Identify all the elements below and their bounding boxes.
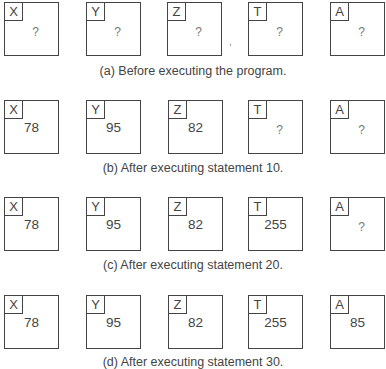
state-row-b: X 78 Y 95 Z 82 T ? A ?: [0, 100, 386, 156]
variable-label: Y: [86, 2, 105, 21]
variable-value: 82: [169, 120, 222, 136]
variable-value: 82: [169, 315, 222, 331]
variable-label: X: [4, 2, 23, 21]
caption-c: (c) After executing statement 20.: [0, 258, 386, 272]
memory-cell-x: X 78: [4, 197, 59, 251]
state-row-d: X 78 Y 95 Z 82 T 255 A 85: [0, 295, 386, 351]
memory-cell-z: Z 82: [168, 295, 223, 349]
variable-value: 95: [87, 217, 140, 233]
caption-a: (a) Before executing the program.: [0, 64, 386, 78]
variable-label: T: [248, 2, 267, 21]
variable-label: T: [248, 197, 267, 216]
variable-label: Z: [168, 197, 187, 216]
stray-mark: ,: [229, 36, 232, 47]
memory-cell-t: T ?: [248, 2, 303, 56]
variable-value: ?: [168, 24, 221, 40]
variable-value: 82: [169, 217, 222, 233]
state-row-a: X ? Y ? Z ? , T ? A ?: [0, 2, 386, 58]
variable-label: A: [330, 295, 349, 314]
memory-cell-x: X 78: [4, 100, 59, 154]
variable-value: 78: [5, 120, 58, 136]
variable-value: 78: [5, 315, 58, 331]
variable-value: ?: [249, 122, 302, 138]
memory-cell-t: T 255: [248, 197, 303, 251]
memory-cell-a: A ?: [330, 100, 385, 154]
memory-cell-a: A 85: [330, 295, 385, 349]
variable-label: Y: [86, 100, 105, 119]
state-row-c: X 78 Y 95 Z 82 T 255 A ?: [0, 197, 386, 253]
memory-cell-a: A ?: [330, 197, 385, 251]
variable-label: A: [330, 2, 349, 21]
memory-cell-z: Z 82: [168, 100, 223, 154]
variable-value: 78: [5, 217, 58, 233]
memory-cell-a: A ?: [330, 2, 385, 56]
variable-label: A: [330, 197, 349, 216]
variable-label: T: [248, 100, 267, 119]
caption-d: (d) After executing statement 30.: [0, 355, 386, 369]
memory-cell-y: Y ?: [86, 2, 141, 56]
variable-value: ?: [331, 219, 384, 235]
memory-cell-t: T ?: [248, 100, 303, 154]
memory-cell-y: Y 95: [86, 197, 141, 251]
variable-label: X: [4, 295, 23, 314]
variable-label: A: [330, 100, 349, 119]
variable-value: 255: [249, 315, 302, 331]
memory-cell-x: X ?: [4, 2, 59, 56]
variable-label: Z: [168, 100, 187, 119]
memory-cell-t: T 255: [248, 295, 303, 349]
variable-label: Y: [86, 295, 105, 314]
memory-cell-z: Z ?: [167, 2, 222, 56]
variable-label: Y: [86, 197, 105, 216]
memory-cell-z: Z 82: [168, 197, 223, 251]
variable-value: ?: [331, 122, 384, 138]
variable-value: 95: [87, 120, 140, 136]
variable-label: T: [248, 295, 267, 314]
memory-cell-y: Y 95: [86, 295, 141, 349]
variable-value: 95: [87, 315, 140, 331]
variable-value: ?: [249, 24, 302, 40]
variable-label: X: [4, 100, 23, 119]
memory-cell-x: X 78: [4, 295, 59, 349]
variable-label: Z: [167, 2, 186, 21]
caption-b: (b) After executing statement 10.: [0, 161, 386, 175]
variable-value: ?: [87, 24, 140, 40]
variable-value: 255: [249, 217, 302, 233]
variable-value: ?: [5, 24, 58, 40]
variable-value: ?: [331, 24, 384, 40]
variable-label: Z: [168, 295, 187, 314]
variable-value: 85: [331, 315, 384, 331]
memory-cell-y: Y 95: [86, 100, 141, 154]
variable-label: X: [4, 197, 23, 216]
